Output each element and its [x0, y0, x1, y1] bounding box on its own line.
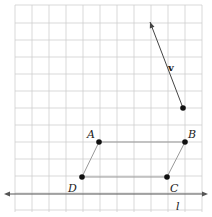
vector-tail-point	[180, 105, 186, 111]
point-d: D	[67, 174, 85, 195]
parallelogram-abcd	[82, 142, 185, 177]
point-d-label: D	[67, 182, 77, 195]
translation-diagram: l v A B C D	[0, 0, 212, 217]
arrow-left-icon	[4, 192, 10, 197]
grid	[15, 5, 202, 212]
point-b-label: B	[187, 128, 196, 141]
vector-label: v	[167, 62, 175, 73]
point-c: C	[164, 174, 179, 195]
line-l-label: l	[176, 200, 180, 213]
arrow-right-icon	[202, 192, 208, 197]
point-c-label: C	[170, 182, 179, 195]
diagram-canvas: l v A B C D	[0, 0, 212, 217]
point-a-label: A	[86, 128, 95, 141]
